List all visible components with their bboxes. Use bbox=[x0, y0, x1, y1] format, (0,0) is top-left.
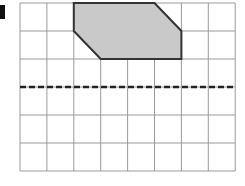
grid-diagram bbox=[0, 0, 245, 186]
shaded-shape bbox=[74, 3, 182, 59]
